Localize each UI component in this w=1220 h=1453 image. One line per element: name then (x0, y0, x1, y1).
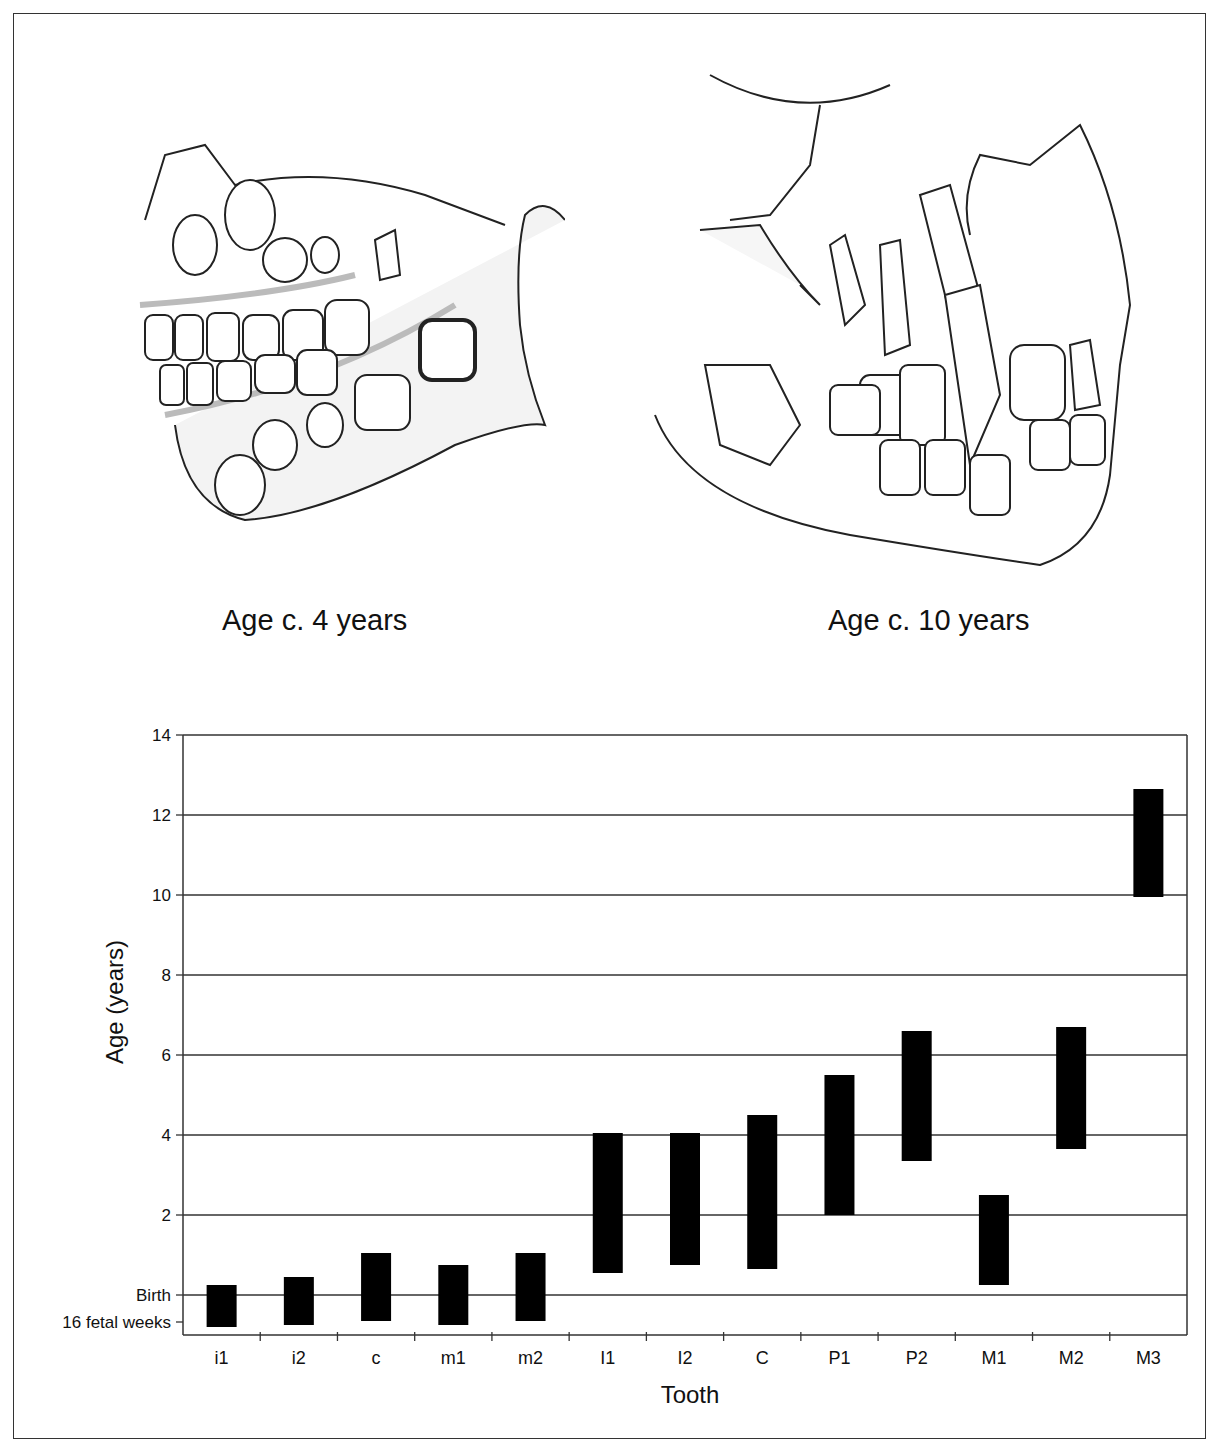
x-tick-labels: i1i2cm1m2I1I2CP1P2M1M2M3 (215, 1348, 1161, 1368)
x-tick-label: P1 (828, 1348, 850, 1368)
tooth-development-chart: 1412108642Birth16 fetal weeks i1i2cm1m2I… (0, 0, 1220, 1453)
y-axis-title: Age (years) (101, 940, 128, 1064)
x-tick-label: I2 (677, 1348, 692, 1368)
x-tick-label: m1 (441, 1348, 466, 1368)
x-tick-label: M2 (1059, 1348, 1084, 1368)
x-tick-label: i1 (215, 1348, 229, 1368)
x-tick-label: P2 (906, 1348, 928, 1368)
x-tick-label: M1 (981, 1348, 1006, 1368)
bars (207, 789, 1164, 1327)
x-tick-label: I1 (600, 1348, 615, 1368)
x-tick-label: i2 (292, 1348, 306, 1368)
y-tick-label: 14 (152, 726, 171, 745)
range-bar-P2 (902, 1031, 932, 1161)
range-bar-M3 (1133, 789, 1163, 897)
y-tick-label: 2 (162, 1206, 171, 1225)
x-tick-label: C (756, 1348, 769, 1368)
x-tick-label: m2 (518, 1348, 543, 1368)
y-tick-label: 10 (152, 886, 171, 905)
range-bar-m1 (438, 1265, 468, 1325)
y-tick-label: 12 (152, 806, 171, 825)
range-bar-I1 (593, 1133, 623, 1273)
y-tick-label: 8 (162, 966, 171, 985)
range-bar-I2 (670, 1133, 700, 1265)
range-bar-M1 (979, 1195, 1009, 1285)
y-tick-label: 4 (162, 1126, 171, 1145)
range-bar-i2 (284, 1277, 314, 1325)
range-bar-M2 (1056, 1027, 1086, 1149)
y-tick-label: 6 (162, 1046, 171, 1065)
y-tick-label: 16 fetal weeks (62, 1313, 171, 1332)
x-axis-title: Tooth (661, 1381, 720, 1408)
range-bar-m2 (516, 1253, 546, 1321)
range-bar-i1 (207, 1285, 237, 1327)
x-tick-label: M3 (1136, 1348, 1161, 1368)
range-bar-c (361, 1253, 391, 1321)
x-tick-label: c (372, 1348, 381, 1368)
y-tick-label: Birth (136, 1286, 171, 1305)
range-bar-P1 (824, 1075, 854, 1215)
range-bar-C (747, 1115, 777, 1269)
